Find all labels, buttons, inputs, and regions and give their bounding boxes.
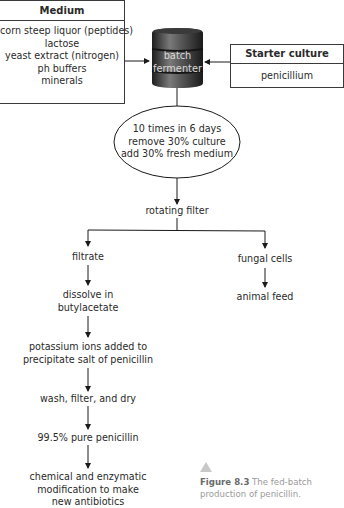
barrel-icon: batch fermenter — [150, 27, 205, 89]
starter-item: penicillium — [231, 64, 343, 87]
medium-item: ph buffers — [0, 63, 124, 76]
pure-penicillin-label: 99.5% pure penicillin — [18, 432, 158, 445]
starter-culture-box: Starter culture penicillium — [230, 44, 344, 88]
medium-item: lactose — [0, 38, 124, 51]
filtrate-label: filtrate — [48, 251, 128, 264]
animal-feed-label: animal feed — [225, 291, 305, 304]
medium-box: Medium corn steep liquor (peptides) lact… — [0, 0, 125, 104]
modification-label: chemical and enzymatic modification to m… — [18, 471, 158, 508]
starter-title: Starter culture — [231, 45, 343, 64]
rotating-filter-label: rotating filter — [117, 205, 237, 218]
wash-label: wash, filter, and dry — [18, 393, 158, 406]
potassium-label: potassium ions added to precipitate salt… — [18, 341, 158, 366]
medium-title: Medium — [0, 1, 124, 21]
caption-triangle-icon — [200, 462, 212, 472]
medium-item: yeast extract (nitrogen) — [0, 50, 124, 63]
fungal-cells-label: fungal cells — [225, 253, 305, 266]
process-text: 10 times in 6 days remove 30% culture ad… — [114, 123, 240, 161]
figure-number: Figure 8.3 — [200, 477, 249, 487]
medium-item: corn steep liquor (peptides) — [0, 25, 124, 38]
figure-caption: Figure 8.3 The fed-batch production of p… — [200, 476, 312, 500]
medium-item: minerals — [0, 75, 124, 88]
dissolve-label: dissolve in butylacetate — [38, 289, 138, 314]
fermenter-label: batch fermenter — [150, 49, 205, 75]
